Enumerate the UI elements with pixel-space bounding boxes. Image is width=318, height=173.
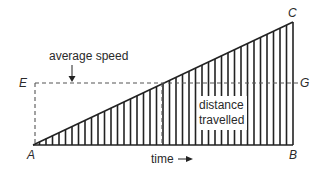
average-speed-arrow-icon — [69, 76, 76, 82]
distance-label-line2: travelled — [199, 113, 244, 127]
distance-label-line1: distance — [199, 98, 244, 112]
point-label-G: G — [300, 76, 309, 90]
point-label-A: A — [26, 148, 35, 162]
time-arrow-icon — [186, 156, 193, 162]
point-label-B: B — [289, 148, 297, 162]
speed-time-diagram: average speed distance travelled time A … — [0, 0, 318, 173]
point-label-C: C — [288, 6, 297, 20]
point-label-E: E — [19, 76, 28, 90]
average-speed-label: average speed — [49, 49, 128, 63]
time-label: time — [151, 152, 174, 166]
